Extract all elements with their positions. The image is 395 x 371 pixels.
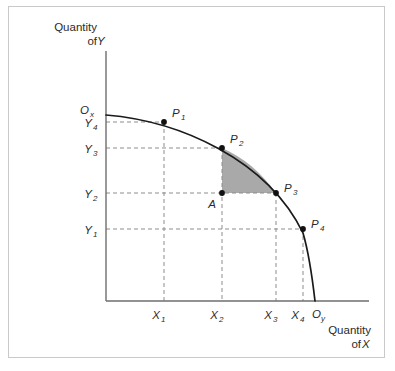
y-axis-title-line1: Quantity: [54, 21, 97, 33]
oy-intercept-label: O: [312, 308, 321, 320]
x-tick-label-x3: X: [263, 309, 273, 321]
x-axis-title-line1: Quantity: [328, 324, 371, 336]
point-label-p4: P: [311, 218, 319, 230]
data-point-p4: [300, 226, 306, 232]
point-subscript-p2: 2: [238, 139, 244, 148]
x-tick-subscript-x3: 3: [273, 315, 278, 324]
figure-frame: Quantity of Y Quantity of X O x O y Y 4 …: [8, 6, 385, 358]
y-tick-label-y4: Y: [84, 117, 93, 129]
x-tick-label-x2: X: [209, 309, 219, 321]
point-label-p1: P: [172, 107, 180, 119]
oy-intercept-subscript: y: [320, 314, 326, 323]
y-tick-label-y3: Y: [84, 143, 93, 155]
ox-intercept-label: O: [80, 104, 89, 116]
y-tick-subscript-y3: 3: [93, 149, 98, 158]
x-axis-title-line2-prefix: of: [351, 338, 361, 350]
y-axis-title-line2-variable: Y: [97, 35, 106, 47]
point-label-a: A: [207, 198, 216, 210]
data-point-p1: [161, 119, 167, 125]
y-tick-subscript-y4: 4: [93, 123, 98, 132]
data-point-a: [219, 190, 225, 196]
x-axis-title-line2-variable: X: [361, 338, 371, 350]
point-label-p3: P: [284, 182, 292, 194]
data-point-p3: [273, 190, 279, 196]
x-tick-label-x1: X: [151, 309, 161, 321]
x-tick-subscript-x2: 2: [218, 315, 224, 324]
point-subscript-p1: 1: [181, 113, 185, 122]
point-subscript-p4: 4: [320, 224, 325, 233]
y-tick-subscript-y1: 1: [93, 230, 97, 239]
data-point-p2: [219, 145, 225, 151]
y-tick-label-y2: Y: [84, 188, 93, 200]
x-tick-subscript-x4: 4: [300, 315, 305, 324]
point-label-p2: P: [230, 133, 238, 145]
x-tick-label-x4: X: [290, 309, 300, 321]
y-tick-label-y1: Y: [84, 224, 93, 236]
y-tick-subscript-y2: 2: [92, 194, 98, 203]
production-possibility-frontier-chart: Quantity of Y Quantity of X O x O y Y 4 …: [9, 7, 384, 357]
x-tick-subscript-x1: 1: [161, 315, 165, 324]
point-subscript-p3: 3: [293, 188, 298, 197]
